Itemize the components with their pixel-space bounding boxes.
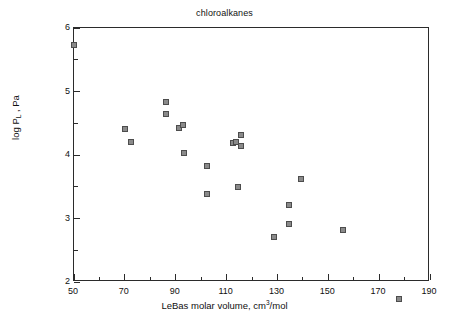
y-axis-tick-label: 4 bbox=[60, 149, 70, 159]
data-point bbox=[204, 163, 210, 169]
x-axis-tick-major bbox=[175, 274, 176, 280]
x-axis-tick-major bbox=[277, 274, 278, 280]
data-point bbox=[204, 191, 210, 197]
y-axis-tick-label: 3 bbox=[60, 213, 70, 223]
x-axis-tick-label: 130 bbox=[269, 286, 284, 296]
x-axis-tick-major bbox=[74, 274, 75, 280]
y-axis-tick-major bbox=[74, 155, 80, 156]
data-point bbox=[238, 132, 244, 138]
x-axis-tick-major bbox=[124, 274, 125, 280]
x-axis-tick-label: 190 bbox=[421, 286, 436, 296]
y-axis-tick-minor bbox=[74, 123, 78, 124]
x-axis-tick-label: 150 bbox=[320, 286, 335, 296]
x-axis-tick-minor bbox=[99, 277, 100, 281]
x-axis-label: LeBas molar volume, cm3/mol bbox=[0, 300, 449, 311]
data-point bbox=[340, 227, 346, 233]
x-axis-tick-major bbox=[430, 274, 431, 280]
x-axis-tick-minor bbox=[252, 277, 253, 281]
x-axis-tick-major bbox=[328, 274, 329, 280]
x-axis-tick-major bbox=[226, 274, 227, 280]
y-axis-tick-label: 6 bbox=[60, 22, 70, 32]
y-axis-tick-minor bbox=[74, 59, 78, 60]
y-axis-tick-minor bbox=[74, 250, 78, 251]
data-point bbox=[128, 139, 134, 145]
x-axis-tick-minor bbox=[404, 277, 405, 281]
data-point bbox=[122, 126, 128, 132]
y-axis-tick-minor bbox=[74, 186, 78, 187]
x-axis-tick-minor bbox=[302, 277, 303, 281]
x-axis-tick-label: 170 bbox=[371, 286, 386, 296]
y-axis-label: log PL , Pa bbox=[10, 58, 21, 178]
y-axis-label-subscript: L bbox=[15, 115, 22, 119]
data-point bbox=[238, 143, 244, 149]
scatter-points-layer bbox=[74, 28, 428, 280]
y-axis-tick-label: 2 bbox=[60, 276, 70, 286]
x-axis-tick-minor bbox=[201, 277, 202, 281]
data-point bbox=[71, 42, 77, 48]
y-axis-tick-major bbox=[74, 28, 80, 29]
x-axis-tick-label: 70 bbox=[119, 286, 129, 296]
data-point bbox=[163, 99, 169, 105]
data-point bbox=[235, 184, 241, 190]
y-axis-tick-major bbox=[74, 218, 80, 219]
x-axis-label-prefix: LeBas molar volume, cm bbox=[161, 300, 266, 311]
x-axis-tick-label: 110 bbox=[218, 286, 232, 296]
plot-area bbox=[73, 27, 429, 281]
x-axis-tick-major bbox=[379, 274, 380, 280]
x-axis-tick-minor bbox=[353, 277, 354, 281]
x-axis-label-suffix: /mol bbox=[270, 300, 288, 311]
y-axis-tick-major bbox=[74, 91, 80, 92]
y-axis-tick-major bbox=[74, 282, 80, 283]
y-axis-label-prefix: log P bbox=[10, 118, 21, 140]
y-axis-label-suffix: , Pa bbox=[10, 95, 21, 115]
y-axis-tick-label: 5 bbox=[60, 86, 70, 96]
data-point bbox=[286, 202, 292, 208]
x-axis-tick-label: 90 bbox=[170, 286, 180, 296]
data-point bbox=[286, 221, 292, 227]
x-axis-tick-minor bbox=[150, 277, 151, 281]
chart-title: chloroalkanes bbox=[0, 8, 449, 18]
data-point bbox=[298, 176, 304, 182]
chart-figure: chloroalkanes 50709011013015017019023456… bbox=[0, 0, 449, 323]
data-point bbox=[181, 150, 187, 156]
data-point bbox=[180, 122, 186, 128]
data-point bbox=[271, 234, 277, 240]
x-axis-tick-label: 50 bbox=[68, 286, 78, 296]
data-point bbox=[163, 111, 169, 117]
